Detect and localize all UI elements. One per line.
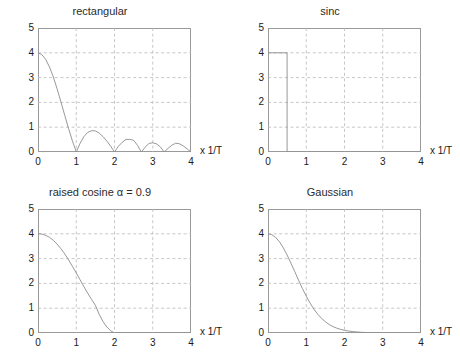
xtick-label: 0 — [30, 338, 46, 348]
xtick-label: 0 — [30, 157, 46, 167]
xtick-label: 0 — [260, 338, 276, 348]
plot-panel-gaussian: Gaussian 5 4 3 2 1 0 0 — [230, 181, 460, 362]
ytick-label: 5 — [242, 204, 264, 214]
gridlines — [38, 28, 191, 152]
figure-canvas: rectangular 5 4 3 2 1 0 0 — [0, 0, 460, 362]
ytick-label: 0 — [242, 147, 264, 157]
xtick-label: 1 — [68, 157, 84, 167]
plot-area-gaussian: 5 4 3 2 1 0 0 1 2 3 4 x 1/T — [268, 209, 421, 333]
xtick-label: 3 — [375, 338, 391, 348]
ytick-label: 4 — [12, 229, 34, 239]
xaxis-label-rectangular: x 1/T — [200, 146, 222, 156]
ytick-label: 0 — [12, 328, 34, 338]
xtick-label: 3 — [375, 157, 391, 167]
ytick-label: 2 — [12, 278, 34, 288]
ytick-label: 3 — [242, 73, 264, 83]
ytick-label: 1 — [12, 122, 34, 132]
ytick-label: 3 — [242, 254, 264, 264]
plot-area-rectangular: 5 4 3 2 1 0 0 1 2 3 4 x 1/T — [38, 28, 191, 152]
ytick-label: 5 — [12, 204, 34, 214]
xtick-label: 3 — [145, 338, 161, 348]
xtick-label: 1 — [68, 338, 84, 348]
plot-graphics-sinc — [268, 28, 421, 152]
ytick-label: 1 — [242, 303, 264, 313]
xaxis-label-gaussian: x 1/T — [430, 327, 452, 337]
ytick-label: 0 — [242, 328, 264, 338]
plot-graphics-gaussian — [268, 209, 421, 333]
ytick-label: 4 — [12, 48, 34, 58]
xtick-label: 0 — [260, 157, 276, 167]
xtick-label: 4 — [183, 157, 199, 167]
ytick-label: 2 — [242, 278, 264, 288]
plot-title-gaussian: Gaussian — [230, 186, 430, 199]
plot-area-sinc: 5 4 3 2 1 0 0 1 2 3 4 x 1/T — [268, 28, 421, 152]
xtick-label: 2 — [337, 157, 353, 167]
ytick-label: 1 — [242, 122, 264, 132]
plot-panel-rectangular: rectangular 5 4 3 2 1 0 0 — [0, 0, 230, 181]
ytick-label: 4 — [242, 48, 264, 58]
xtick-label: 1 — [298, 157, 314, 167]
xtick-label: 4 — [413, 157, 429, 167]
ytick-label: 2 — [12, 97, 34, 107]
plot-area-raised-cosine: 5 4 3 2 1 0 0 1 2 3 4 x 1/T — [38, 209, 191, 333]
gridlines — [268, 28, 421, 152]
xtick-label: 2 — [337, 338, 353, 348]
ytick-label: 5 — [12, 23, 34, 33]
xtick-label: 1 — [298, 338, 314, 348]
plot-panel-raised-cosine: raised cosine α = 0.9 5 4 3 2 1 0 — [0, 181, 230, 362]
xtick-label: 2 — [107, 157, 123, 167]
plot-title-rectangular: rectangular — [0, 5, 200, 18]
ytick-label: 1 — [12, 303, 34, 313]
gridlines — [268, 209, 421, 333]
plot-graphics-raised-cosine — [38, 209, 191, 333]
plot-title-sinc: sinc — [230, 5, 430, 18]
ytick-label: 3 — [12, 73, 34, 83]
ytick-label: 4 — [242, 229, 264, 239]
xtick-label: 4 — [183, 338, 199, 348]
plot-graphics-rectangular — [38, 28, 191, 152]
ytick-label: 0 — [12, 147, 34, 157]
ytick-label: 5 — [242, 23, 264, 33]
ytick-label: 3 — [12, 254, 34, 264]
gridlines — [38, 209, 191, 333]
xaxis-label-sinc: x 1/T — [430, 146, 452, 156]
xtick-label: 2 — [107, 338, 123, 348]
xtick-label: 4 — [413, 338, 429, 348]
ytick-label: 2 — [242, 97, 264, 107]
xtick-label: 3 — [145, 157, 161, 167]
plot-panel-sinc: sinc 5 4 3 2 1 0 0 1 — [230, 0, 460, 181]
xaxis-label-raised-cosine: x 1/T — [200, 327, 222, 337]
plot-title-raised-cosine: raised cosine α = 0.9 — [0, 186, 200, 199]
